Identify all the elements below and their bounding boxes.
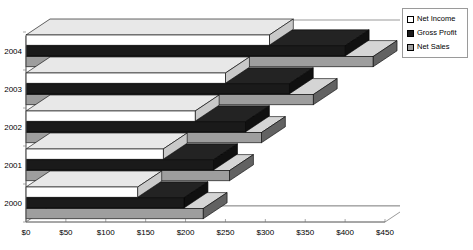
x-axis-tick-label: $0 bbox=[22, 228, 31, 237]
chart-legend: Net Income Gross Profit Net Sales bbox=[402, 8, 468, 58]
legend-swatch-net-income bbox=[407, 16, 414, 23]
legend-item-net-sales[interactable]: Net Sales bbox=[407, 41, 464, 53]
y-axis-tick-label: 2000 bbox=[0, 199, 22, 208]
legend-label-net-income: Net Income bbox=[417, 15, 455, 23]
y-axis-tick-label: 2002 bbox=[0, 123, 22, 132]
x-axis-tick-label: $200 bbox=[177, 228, 195, 237]
legend-swatch-net-sales bbox=[407, 44, 414, 51]
x-axis-tick-label: $350 bbox=[296, 228, 314, 237]
legend-item-net-income[interactable]: Net Income bbox=[407, 13, 464, 25]
chart-container: $0$50$100$150$200$250$300$350$400$450200… bbox=[0, 0, 473, 250]
x-axis-tick-label: $50 bbox=[59, 228, 72, 237]
x-axis-tick-label: $300 bbox=[256, 228, 274, 237]
legend-swatch-gross-profit bbox=[407, 30, 414, 37]
x-axis-tick-label: $100 bbox=[97, 228, 115, 237]
legend-item-gross-profit[interactable]: Gross Profit bbox=[407, 27, 464, 39]
legend-label-gross-profit: Gross Profit bbox=[417, 29, 457, 37]
plot-area: $0$50$100$150$200$250$300$350$400$450200… bbox=[0, 0, 400, 250]
x-axis-tick-label: $250 bbox=[217, 228, 235, 237]
x-axis-tick-label: $400 bbox=[336, 228, 354, 237]
x-axis-tick-label: $450 bbox=[376, 228, 394, 237]
y-axis-tick-label: 2003 bbox=[0, 85, 22, 94]
legend-label-net-sales: Net Sales bbox=[417, 43, 450, 51]
y-axis-tick-label: 2004 bbox=[0, 47, 22, 56]
chart-canvas bbox=[0, 0, 400, 250]
x-axis-tick-label: $150 bbox=[137, 228, 155, 237]
y-axis-tick-label: 2001 bbox=[0, 161, 22, 170]
